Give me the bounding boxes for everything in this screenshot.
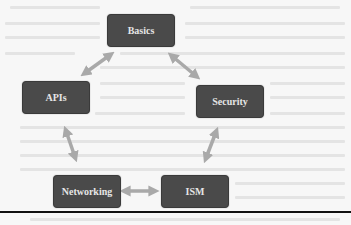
node-label: Security <box>212 96 248 107</box>
node-label: Networking <box>62 186 113 197</box>
node-basics: Basics <box>107 14 175 47</box>
node-label: APIs <box>45 92 66 103</box>
arrow-basics-apis <box>85 55 110 73</box>
node-label: Basics <box>128 25 155 36</box>
node-label: ISM <box>186 186 205 197</box>
arrow-security-ism <box>206 132 216 158</box>
node-security: Security <box>196 85 264 118</box>
arrow-basics-security <box>172 56 196 76</box>
horizontal-rule <box>0 211 351 213</box>
node-networking: Networking <box>53 175 121 208</box>
node-ism: ISM <box>161 175 229 208</box>
arrow-apis-networking <box>66 131 75 157</box>
node-apis: APIs <box>22 81 90 114</box>
